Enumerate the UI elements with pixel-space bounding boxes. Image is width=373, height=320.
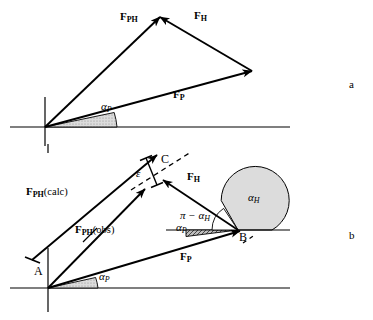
panel-a-vector-fh[interactable] bbox=[160, 17, 252, 71]
panel-b-label-fh: FH bbox=[187, 171, 200, 184]
panel-a-label-fph: FPH bbox=[120, 11, 138, 24]
panel-b-label-alpha-h: αH bbox=[248, 192, 260, 205]
panel-a-label-fh: FH bbox=[194, 10, 207, 23]
panel-b-graphics bbox=[10, 144, 290, 312]
panel-b-label-alpha-p-at-b: αP bbox=[176, 222, 187, 235]
panel-a-label-fp: FP bbox=[173, 89, 185, 102]
panel-b-point-c: C bbox=[161, 153, 169, 165]
vector-diagram-svg bbox=[0, 0, 373, 320]
panel-a-graphics bbox=[10, 17, 290, 146]
panel-b-label-epsilon: ε bbox=[136, 168, 140, 179]
panel-b-point-a: A bbox=[34, 265, 43, 277]
panel-b-label-fph-calc: FPH(calc) bbox=[26, 186, 68, 199]
panel-b-point-b: B bbox=[239, 231, 247, 243]
panel-b-label-alpha-p-at-a: αP bbox=[99, 271, 110, 284]
panel-b-label-fph-obs: FPH(obs) bbox=[75, 224, 114, 237]
panel-a-label-alpha-p: αP bbox=[101, 101, 112, 114]
figure-container: FPH FH FP αP a FPH(calc) FPH(obs) FH FP … bbox=[0, 0, 373, 320]
panel-b-label-fp: FP bbox=[180, 251, 192, 264]
panel-a-caption: a bbox=[349, 79, 354, 90]
panel-a-vector-fp[interactable] bbox=[45, 71, 252, 127]
panel-b-caption: b bbox=[349, 230, 355, 241]
